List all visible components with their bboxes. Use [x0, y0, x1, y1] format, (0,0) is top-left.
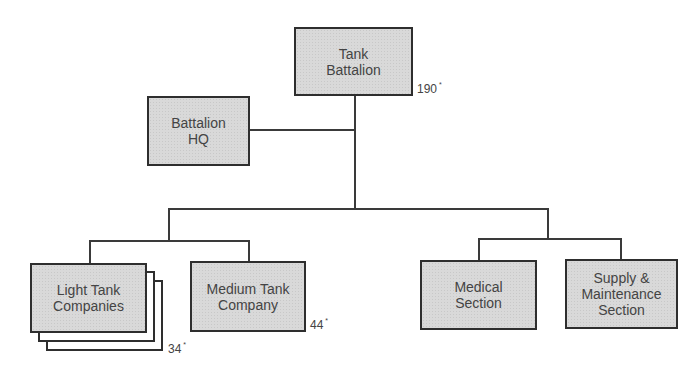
connector-left-bar [89, 240, 249, 242]
node-label: Tank Battalion [326, 46, 380, 78]
connector-right-drop [547, 208, 549, 239]
node-label: Medium Tank Company [206, 281, 289, 313]
connector-right-bar [478, 238, 621, 240]
connector-main-bar [168, 208, 548, 210]
node-supply-maintenance-section: Supply & Maintenance Section [565, 259, 678, 329]
connector-hq [249, 129, 355, 131]
node-label: Medical Section [454, 279, 502, 311]
connector-left-drop [168, 208, 170, 241]
connector-medium-tank [248, 240, 250, 261]
connector-battalion-trunk [354, 95, 356, 209]
node-light-tank-companies: Light Tank Companies [30, 263, 147, 333]
node-medium-tank-company: Medium Tank Company [190, 261, 306, 332]
node-medical-section: Medical Section [420, 260, 537, 330]
node-label: Supply & Maintenance Section [581, 270, 661, 318]
node-battalion-hq: Battalion HQ [147, 96, 250, 166]
node-label: Battalion HQ [171, 115, 225, 147]
connector-medical [478, 238, 480, 260]
personnel-count-medium-tank: 44* [310, 318, 328, 332]
personnel-count-tank-battalion: 190* [417, 82, 442, 96]
personnel-count-light-tank: 34* [168, 342, 186, 356]
node-tank-battalion: Tank Battalion [294, 27, 413, 96]
connector-light-tank [89, 240, 91, 263]
node-label: Light Tank Companies [53, 282, 124, 314]
connector-supply [620, 238, 622, 259]
